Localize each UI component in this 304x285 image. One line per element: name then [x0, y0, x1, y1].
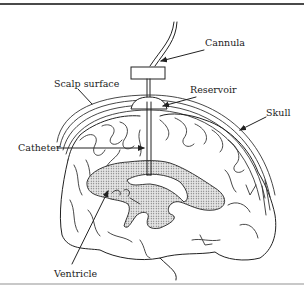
cannula [150, 22, 177, 66]
ventricle [87, 161, 225, 229]
skull-leader [240, 117, 266, 130]
label-skull: Skull [266, 107, 290, 118]
cannula-hub [131, 67, 165, 79]
cannula-leader [161, 50, 204, 61]
diagram-frame: Cannula Scalp surface Reservoir Skull Ca… [0, 0, 304, 285]
ventricle-leader [72, 191, 108, 264]
reservoir [131, 97, 167, 109]
label-reservoir: Reservoir [190, 84, 237, 95]
scalp-surface-leader [78, 89, 92, 104]
label-catheter: Catheter [18, 142, 61, 153]
label-ventricle: Ventricle [53, 268, 97, 279]
label-cannula: Cannula [205, 37, 245, 48]
brain-catheter-diagram: Cannula Scalp surface Reservoir Skull Ca… [0, 0, 304, 285]
label-scalp-surface: Scalp surface [54, 78, 120, 89]
